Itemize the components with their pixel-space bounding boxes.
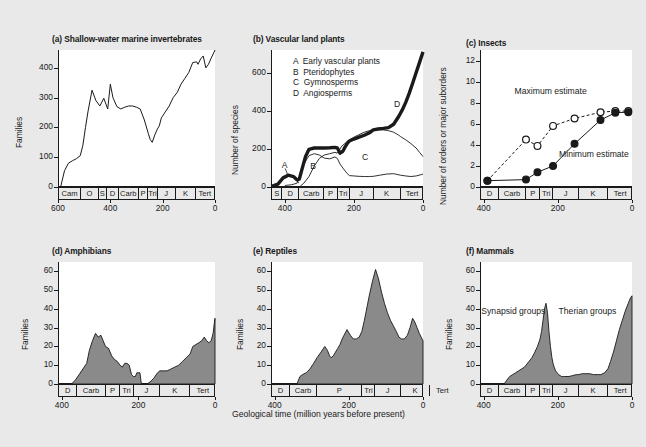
panel-e-period-band: DCarbPTriJKTert [271,384,423,397]
period-tri: Tri [148,188,157,199]
panel-d-ytick-mark [54,328,58,329]
period-k: K [579,188,608,199]
panel-b-ytick-mark [267,111,271,112]
panel-c-ytick-mark [476,145,480,146]
panel-f-ytick-label: 20 [444,340,475,350]
period-tri: Tri [120,385,133,396]
period-d: D [282,188,299,199]
period-p: P [526,385,540,396]
panel-a-ytick-label: 400 [22,62,53,72]
panel-f-annotation: Therian groups [554,306,622,316]
panel-e-ytick-mark [267,290,271,291]
panel-e-ytick-label: 60 [235,265,266,275]
panel-e-ytick-mark [267,346,271,347]
panel-c-annotation: Maximum estimate [515,86,583,96]
panel-b-ytick-label: 0 [235,181,266,191]
panel-d-period-band: DCarbPTriJKTert [58,384,215,397]
panel-a-xtick-label: 0 [199,203,231,213]
panel-a-ytick-mark [54,98,58,99]
panel-b-xtick-label: 400 [269,203,301,213]
panel-c-ytick-label: 12 [444,55,475,65]
period-j: J [134,385,160,396]
period-carb: Carb [299,188,325,199]
panel-b-ytick-label: 600 [235,67,266,77]
period-tri: Tri [540,188,553,199]
panel-b-ytick-label: 200 [235,143,266,153]
panel-a-period-band: CamOSDCarbPTriJKTert [58,187,215,200]
panel-d-ytick-mark [54,290,58,291]
panel-e-ytick-label: 0 [235,378,266,388]
period-cam: Cam [59,188,81,199]
panel-f-ytick-mark [476,290,480,291]
panel-a-title: (a) Shallow-water marine invertebrates [52,34,202,44]
panel-b-ytick-mark [267,149,271,150]
panel-a-ytick-mark [54,68,58,69]
period-o: O [81,188,99,199]
period-d: D [481,385,499,396]
panel-d-ytick-mark [54,346,58,347]
period-tri: Tri [362,385,375,396]
panel-d-ytick-label: 10 [22,359,53,369]
period-p: P [324,188,337,199]
period-k: K [160,385,190,396]
panel-e-xtick-label: 0 [407,400,439,410]
panel-f-ytick-mark [476,365,480,366]
period-d: D [481,188,499,199]
period-tert: Tert [608,385,632,396]
period-carb: Carb [119,188,138,199]
biodiversity-figure: (a) Shallow-water marine invertebratesFa… [0,0,646,447]
panel-f-ytick-label: 30 [444,322,475,332]
panel-b-y-axis-label: Number of species [230,105,240,175]
panel-a-ytick-label: 0 [22,181,53,191]
panel-c-ytick-label: 2 [444,160,475,170]
panel-e-ytick-label: 50 [235,284,266,294]
period-s: S [99,188,107,199]
panel-a-xtick-label: 200 [147,203,179,213]
panel-c-ytick-label: 4 [444,139,475,149]
panel-e-ytick-label: 30 [235,322,266,332]
panel-e-ytick-mark [267,271,271,272]
panel-c-ytick-mark [476,103,480,104]
panel-b-ytick-label: 400 [235,105,266,115]
panel-d-plot-area [58,262,215,384]
panel-e-ytick-label: 20 [235,340,266,350]
period-tert: Tert [190,385,215,396]
panel-f-ytick-label: 0 [444,378,475,388]
period-carb: Carb [77,385,105,396]
period-tert: Tert [401,188,423,199]
panel-c-plot-area [480,50,632,187]
panel-b-curve-label-a: A [282,160,288,170]
panel-e-title: (e) Reptiles [253,246,297,256]
panel-f-plot-area [480,262,632,384]
panel-c-xtick-label: 200 [542,203,574,213]
panel-c-annotation: Minimum estimate [559,149,627,159]
panel-f-annotation: Synapsid groups [479,306,547,316]
panel-d-ytick-mark [54,309,58,310]
period-d: D [59,385,77,396]
period-tert: Tert [608,188,632,199]
panel-c-ytick-mark [476,82,480,83]
period-j: J [350,188,374,199]
period-j: J [158,188,176,199]
panel-b-curve-label-b: B [310,161,316,171]
x-axis-caption: Geological time (million years before pr… [232,409,405,419]
period-p: P [139,188,149,199]
panel-f-ytick-mark [476,328,480,329]
period-k: K [374,188,401,199]
panel-b-curve-label-c: C [362,152,368,162]
period-d: D [272,385,290,396]
period-k: K [579,385,608,396]
panel-b-ytick-mark [267,73,271,74]
panel-c-period-band: DCarbPTriJKTert [480,187,632,200]
period-p: P [526,188,540,199]
panel-f-ytick-label: 40 [444,303,475,313]
panel-d-xtick-label: 200 [122,400,154,410]
panel-d-ytick-label: 20 [22,340,53,350]
panel-b-xtick-label: 0 [407,203,439,213]
panel-a-ytick-label: 100 [22,151,53,161]
panel-f-title: (f) Mammals [466,246,514,256]
period-carb: Carb [290,385,317,396]
panel-c-ytick-mark [476,61,480,62]
panel-b-title: (b) Vascular land plants [253,34,345,44]
period-carb: Carb [499,188,526,199]
